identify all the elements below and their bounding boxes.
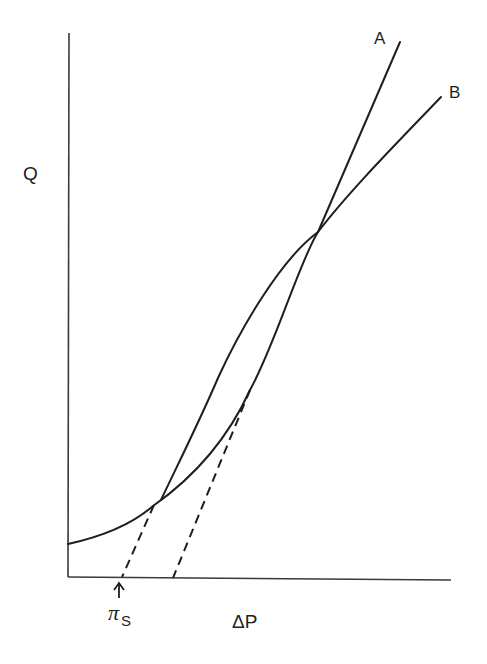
x-axis-label: ΔP	[232, 611, 257, 632]
curve-b-asymptote	[173, 390, 250, 578]
curve-a-label: A	[374, 29, 386, 48]
y-axis-label: Q	[23, 163, 38, 184]
flux-vs-pressure-diagram: A B Q ΔP π S	[0, 0, 487, 664]
curve-b	[68, 97, 441, 544]
pi-symbol: π	[108, 600, 120, 625]
curve-a-extrapolation	[122, 505, 154, 577]
curve-a-upper	[318, 42, 400, 232]
curve-b-label: B	[449, 83, 460, 102]
up-arrow-icon	[114, 583, 124, 598]
pi-s-label: π	[108, 600, 120, 625]
pi-s-subscript: S	[121, 612, 131, 629]
y-axis	[68, 33, 69, 577]
curve-a	[161, 232, 318, 500]
x-axis	[68, 577, 451, 580]
